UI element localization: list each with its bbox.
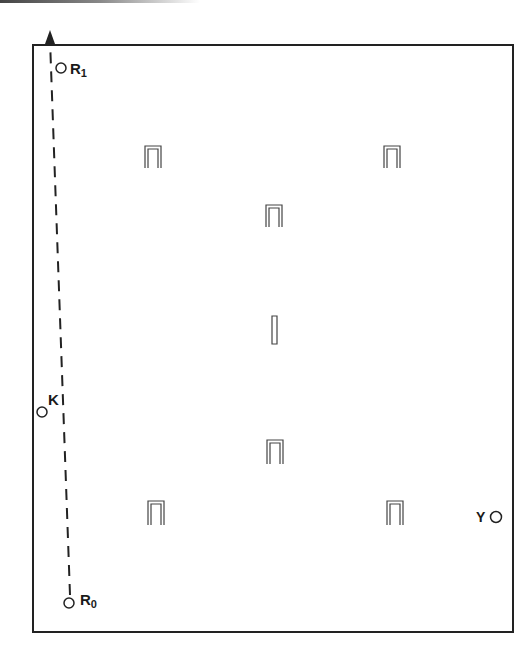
svg-text:K: K bbox=[48, 391, 59, 408]
point-r1: R1 bbox=[56, 60, 87, 79]
svg-text:R1: R1 bbox=[70, 60, 87, 79]
point-y: Y bbox=[476, 509, 502, 525]
point-r0: R0 bbox=[64, 591, 97, 610]
arch-marker bbox=[384, 146, 400, 168]
bar-marker bbox=[272, 316, 277, 344]
markers bbox=[145, 146, 403, 525]
arrow-up-icon bbox=[45, 30, 55, 44]
arch-marker bbox=[148, 501, 164, 525]
svg-text:Y: Y bbox=[476, 509, 486, 525]
dashed-path bbox=[50, 40, 70, 595]
arch-marker bbox=[266, 205, 282, 227]
arch-marker bbox=[267, 440, 283, 464]
svg-text:R0: R0 bbox=[80, 591, 97, 610]
point-k: K bbox=[37, 391, 59, 417]
field-boundary bbox=[33, 45, 513, 632]
field-diagram: R1 K R0 Y bbox=[0, 0, 532, 647]
arch-marker bbox=[387, 501, 403, 525]
arch-marker bbox=[145, 146, 161, 168]
